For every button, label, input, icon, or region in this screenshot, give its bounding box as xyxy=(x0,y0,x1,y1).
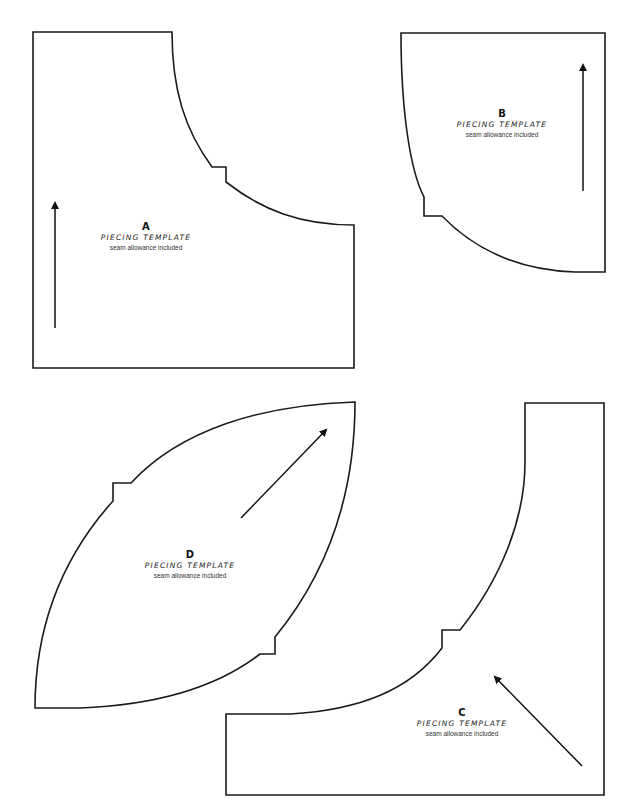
template-a-title: PIECING TEMPLATE xyxy=(101,233,191,243)
template-b-label: B PIECING TEMPLATE seam allowance includ… xyxy=(457,108,547,139)
template-b xyxy=(401,33,605,272)
template-a-label: A PIECING TEMPLATE seam allowance includ… xyxy=(101,221,191,252)
template-a-subtitle: seam allowance included xyxy=(101,243,191,252)
template-b-title: PIECING TEMPLATE xyxy=(457,120,547,130)
template-a-outline xyxy=(33,32,354,368)
template-b-outline xyxy=(401,33,605,272)
template-d-label: D PIECING TEMPLATE seam allowance includ… xyxy=(145,549,235,580)
template-c-subtitle: seam allowance included xyxy=(417,729,507,738)
template-b-subtitle: seam allowance included xyxy=(457,130,547,139)
template-c-title: PIECING TEMPLATE xyxy=(417,719,507,729)
template-b-letter: B xyxy=(457,108,547,120)
template-a xyxy=(33,32,354,368)
template-d-title: PIECING TEMPLATE xyxy=(145,561,235,571)
template-d-subtitle: seam allowance included xyxy=(145,571,235,580)
template-c-label: C PIECING TEMPLATE seam allowance includ… xyxy=(417,707,507,738)
template-a-letter: A xyxy=(101,221,191,233)
template-c-letter: C xyxy=(417,707,507,719)
template-d-letter: D xyxy=(145,549,235,561)
